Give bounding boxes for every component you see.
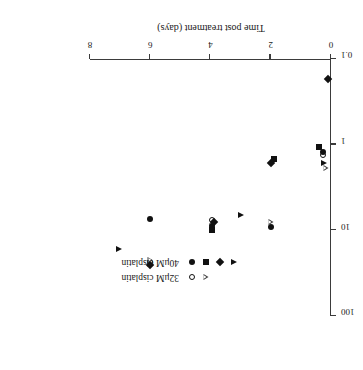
marker-circle-filled xyxy=(189,259,195,265)
data-point xyxy=(238,212,244,218)
data-points-layer xyxy=(90,292,331,316)
x-tick xyxy=(149,54,150,59)
y-tick xyxy=(331,229,336,230)
data-point xyxy=(116,246,122,252)
legend-item: 32μM cisplatin xyxy=(125,269,245,284)
data-point xyxy=(320,149,326,155)
y-tick xyxy=(331,143,336,144)
legend: 32μM cisplatin40μM cisplatin xyxy=(125,254,245,284)
legend-item: 40μM cisplatin xyxy=(125,254,245,269)
legend-label: 40μM cisplatin xyxy=(121,256,179,269)
y-tick-label: 0.1 xyxy=(341,50,352,59)
legend-label: 32μM cisplatin xyxy=(121,271,179,284)
plot-area: 02468 0.1110100 Time post treatment (day… xyxy=(90,59,331,316)
x-tick xyxy=(209,54,210,59)
y-tick xyxy=(331,315,336,316)
marker-diamond-filled xyxy=(216,258,224,266)
x-axis-line xyxy=(90,59,331,60)
marker-square-filled xyxy=(203,259,209,265)
x-tick-label: 6 xyxy=(148,40,153,49)
rotated-figure-container: 02468 0.1110100 Time post treatment (day… xyxy=(0,0,363,370)
data-point xyxy=(316,144,322,150)
marker-triangle-open xyxy=(204,274,209,280)
data-point xyxy=(271,157,277,163)
data-point xyxy=(147,216,153,222)
x-tick xyxy=(269,54,270,59)
y-tick-label: 10 xyxy=(341,221,350,230)
x-tick-label: 2 xyxy=(269,40,274,49)
x-tick-label: 4 xyxy=(208,40,213,49)
x-tick-label: 8 xyxy=(88,40,93,49)
y-tick-label: 1 xyxy=(341,136,346,145)
y-tick-label: 100 xyxy=(341,307,355,316)
y-tick xyxy=(331,58,336,59)
data-point xyxy=(268,224,274,230)
legend-markers xyxy=(183,269,245,284)
marker-triangle-filled xyxy=(231,259,237,265)
x-tick-label: 0 xyxy=(329,40,334,49)
data-point xyxy=(209,227,215,233)
legend-markers xyxy=(183,254,245,269)
chart-figure: 02468 0.1110100 Time post treatment (day… xyxy=(0,0,363,370)
data-point xyxy=(321,160,327,166)
x-tick xyxy=(89,54,90,59)
y-axis-line xyxy=(330,59,331,316)
marker-circle-open xyxy=(189,274,195,280)
x-axis-title: Time post treatment (days) xyxy=(157,23,265,34)
